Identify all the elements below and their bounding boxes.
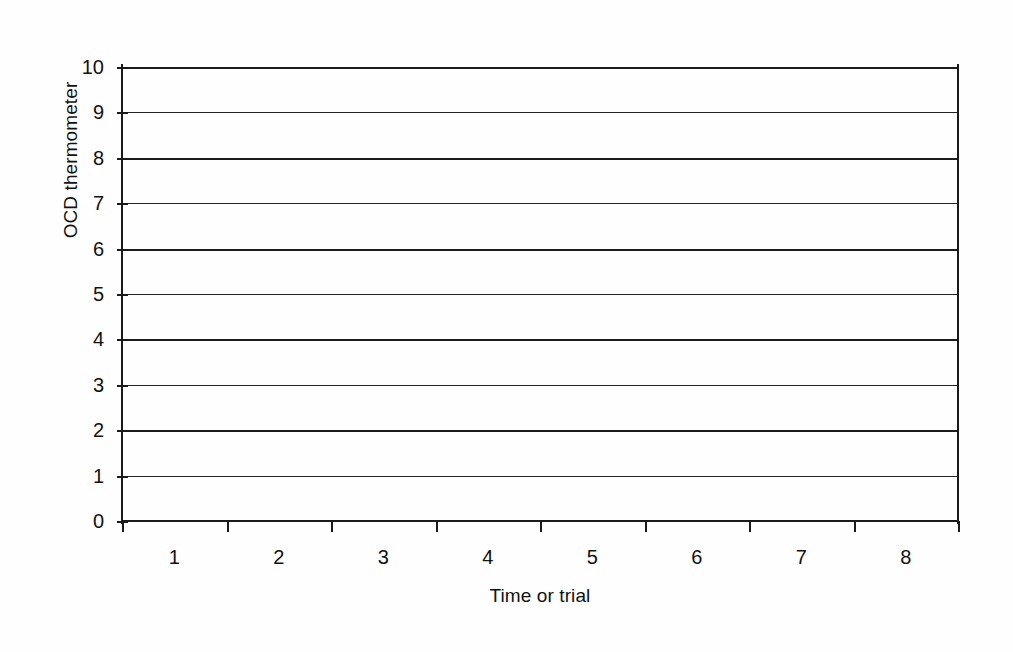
x-axis-tick-label: 5 xyxy=(562,546,622,568)
x-axis-tick-label: 7 xyxy=(771,546,831,568)
x-axis-tick xyxy=(436,521,438,532)
y-axis-tick xyxy=(117,67,128,69)
plot-area xyxy=(122,67,958,521)
x-axis-tick xyxy=(331,521,333,532)
x-axis-tick xyxy=(854,521,856,532)
y-axis-tick-label: 9 xyxy=(64,102,104,122)
x-axis-tick-label: 4 xyxy=(458,546,518,568)
y-axis-tick xyxy=(117,294,128,296)
y-axis-tick-label: 0 xyxy=(64,511,104,531)
x-axis-tick xyxy=(122,521,124,532)
x-axis-tick-label: 3 xyxy=(353,546,413,568)
gridline xyxy=(122,339,958,341)
x-axis-tick-label: 2 xyxy=(249,546,309,568)
y-axis-tick-label: 1 xyxy=(64,466,104,486)
x-axis-tick-label: 8 xyxy=(876,546,936,568)
x-axis-tick xyxy=(227,521,229,532)
gridline xyxy=(122,430,958,432)
y-axis-tick xyxy=(117,158,128,160)
y-axis-tick-label: 6 xyxy=(64,239,104,259)
x-axis-tick xyxy=(540,521,542,532)
y-axis-tick xyxy=(117,385,128,387)
y-axis-tick-label: 3 xyxy=(64,375,104,395)
y-axis-tick xyxy=(117,476,128,478)
chart-figure: OCD thermometer Time or trial 1098765432… xyxy=(0,0,1013,652)
x-axis-title: Time or trial xyxy=(122,585,958,607)
x-axis-tick xyxy=(958,521,960,532)
gridline xyxy=(122,67,958,69)
gridline xyxy=(122,294,958,295)
x-axis-tick xyxy=(645,521,647,532)
gridline xyxy=(122,112,958,113)
y-axis-tick xyxy=(117,249,128,251)
y-axis-tick-label: 10 xyxy=(64,57,104,77)
y-axis-tick-label: 5 xyxy=(64,284,104,304)
gridline xyxy=(122,203,958,204)
gridline xyxy=(122,249,958,251)
x-axis-tick xyxy=(749,521,751,532)
y-axis-tick xyxy=(117,112,128,114)
plot-right-border xyxy=(957,64,959,524)
gridline xyxy=(122,385,958,386)
gridline xyxy=(122,476,958,477)
y-axis-tick-label: 7 xyxy=(64,193,104,213)
y-axis-tick-label: 2 xyxy=(64,420,104,440)
x-axis-tick-label: 6 xyxy=(667,546,727,568)
y-axis-tick-label: 8 xyxy=(64,148,104,168)
y-axis-tick xyxy=(117,203,128,205)
y-axis-tick xyxy=(117,430,128,432)
gridline xyxy=(122,158,958,160)
y-axis-tick-label: 4 xyxy=(64,329,104,349)
y-axis-tick xyxy=(117,339,128,341)
x-axis-tick-label: 1 xyxy=(144,546,204,568)
